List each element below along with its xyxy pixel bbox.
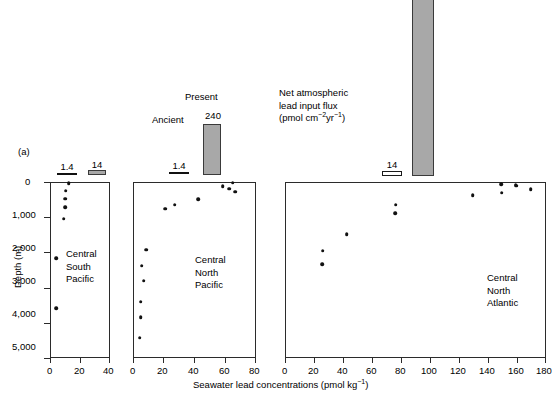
x-tick-label: 80 — [249, 365, 260, 376]
x-tick — [459, 358, 460, 363]
flux-marker-bar-present — [412, 0, 434, 176]
flux-marker-bar-present — [203, 124, 221, 175]
x-tick-label: 100 — [421, 365, 437, 376]
data-point — [67, 181, 71, 185]
data-point — [55, 306, 59, 310]
y-tick-label: 2,000 — [12, 242, 36, 253]
flux-marker-bar-ancient — [169, 172, 189, 174]
data-point — [499, 182, 503, 186]
data-point — [197, 197, 201, 201]
x-tick — [401, 358, 402, 363]
panel-label-central-south-pacific: Central South Pacific — [66, 248, 97, 286]
data-point — [393, 212, 397, 216]
flux-marker-label-ancient: 14 — [382, 159, 402, 170]
panel-label-central-north-pacific: Central North Pacific — [195, 254, 226, 292]
data-point — [140, 264, 144, 268]
x-tick — [194, 358, 195, 363]
y-tick — [44, 288, 50, 289]
panel-tag: (a) — [18, 146, 30, 158]
flux-caption-line: Net atmospheric — [279, 87, 348, 100]
panel-label-line: Central — [487, 272, 518, 285]
x-tick — [80, 358, 81, 363]
data-point — [139, 315, 143, 319]
x-tick — [517, 358, 518, 363]
x-tick-label: 0 — [47, 365, 52, 376]
x-tick-label: 120 — [450, 365, 466, 376]
y-tick-label: 3,000 — [12, 275, 36, 286]
panel-label-central-north-atlantic: Central North Atlantic — [487, 272, 518, 310]
x-tick-label: 20 — [308, 365, 319, 376]
y-tick — [44, 323, 50, 324]
y-tick — [44, 182, 50, 183]
data-point — [500, 191, 504, 195]
legend-present-caption: Present — [185, 91, 218, 103]
y-tick-label: 4,000 — [12, 308, 36, 319]
flux-marker-bar-present — [88, 170, 106, 175]
x-tick-label: 80 — [395, 365, 406, 376]
panel-label-line: Pacific — [195, 279, 226, 292]
x-tick-label: 20 — [157, 365, 168, 376]
x-tick — [343, 358, 344, 363]
data-point — [394, 203, 398, 207]
x-tick-label: 140 — [479, 365, 495, 376]
data-point — [139, 300, 143, 304]
x-tick-label: 40 — [337, 365, 348, 376]
data-point — [515, 184, 519, 188]
data-point — [471, 193, 475, 197]
data-point — [321, 249, 325, 253]
flux-marker-bar-ancient — [57, 173, 77, 175]
flux-caption-units: (pmol cm−2yr−1) — [279, 112, 348, 125]
x-tick — [109, 358, 110, 363]
data-point — [144, 248, 148, 252]
x-tick — [372, 358, 373, 363]
panel-label-line: Pacific — [66, 273, 97, 286]
data-point — [345, 232, 349, 236]
panel-label-line: North — [195, 267, 226, 280]
y-tick-label: 1,000 — [12, 209, 36, 220]
x-tick-label: 20 — [74, 365, 85, 376]
data-point — [63, 206, 67, 210]
x-tick — [255, 358, 256, 363]
panel-label-line: North — [487, 285, 518, 298]
data-point — [234, 190, 238, 194]
data-point — [62, 217, 66, 221]
y-tick — [44, 252, 50, 253]
x-tick-label: 160 — [508, 365, 524, 376]
data-point — [64, 189, 68, 193]
figure-root: (a) Depth (m) 0 1,000 2,000 3,000 4,000 … — [0, 0, 559, 398]
y-tick-label: 0 — [25, 176, 30, 187]
panel-label-line: Atlantic — [487, 297, 518, 310]
x-tick — [545, 358, 546, 363]
x-tick-label: 0 — [130, 365, 135, 376]
x-tick — [285, 358, 286, 363]
data-point — [142, 279, 146, 283]
x-tick — [225, 358, 226, 363]
x-tick-label: 40 — [103, 365, 114, 376]
legend-ancient-caption: Ancient — [152, 114, 184, 126]
flux-marker-label-ancient: 1.4 — [57, 161, 77, 172]
x-tick — [314, 358, 315, 363]
x-tick-label: 0 — [282, 365, 287, 376]
flux-marker-label-present: 14 — [88, 159, 106, 170]
data-point — [227, 187, 231, 191]
data-point — [221, 184, 225, 188]
flux-marker-bar-ancient — [382, 171, 402, 176]
x-tick — [133, 358, 134, 363]
data-point — [55, 257, 59, 261]
data-point — [529, 187, 533, 191]
data-point — [173, 203, 177, 207]
flux-caption: Net atmospheric lead input flux (pmol cm… — [279, 87, 348, 125]
x-tick-label: 60 — [219, 365, 230, 376]
data-point — [320, 262, 324, 266]
x-tick — [430, 358, 431, 363]
panel-label-line: Central — [66, 248, 97, 261]
panel-label-line: South — [66, 261, 97, 274]
flux-marker-label-present: 240 — [200, 110, 226, 121]
data-point — [63, 197, 67, 201]
x-tick — [163, 358, 164, 363]
x-tick-label: 180 — [536, 365, 552, 376]
data-point — [231, 181, 235, 185]
panel-central-north-atlantic — [285, 182, 546, 358]
y-tick-label: 5,000 — [12, 341, 36, 352]
x-tick — [50, 358, 51, 363]
